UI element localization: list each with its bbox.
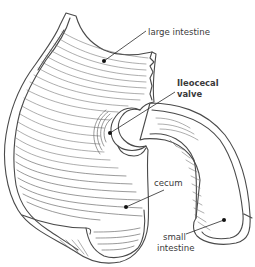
pointer-dot [222,218,226,222]
pointer-dot [102,59,106,63]
large-intestine-body [5,13,157,263]
label-text: large intestine [148,27,210,37]
label-text-line1: Ileocecal [177,78,219,88]
label-text-line1: small [163,232,186,242]
small-intestine-tube [140,103,252,244]
label-text-line2: intestine [157,243,194,253]
pointer-dot [124,205,128,209]
label-text-line2: valve [177,89,202,99]
pointer-dot [108,131,112,135]
ileocecal-diagram: large intestine Ileocecal valve cecum sm… [0,0,255,267]
label-text: cecum [154,178,183,188]
